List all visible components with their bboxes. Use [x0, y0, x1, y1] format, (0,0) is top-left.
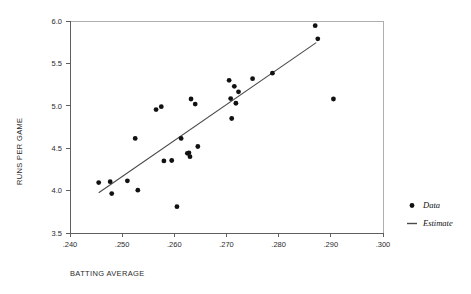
plot-area: 6.05.55.04.54.03.5.240.250.260.270.280.2…: [0, 0, 471, 294]
data-point-marker: [331, 97, 336, 102]
axis-tick-labels: 6.05.55.04.54.03.5.240.250.260.270.280.2…: [52, 17, 391, 249]
y-tick-label: 4.5: [52, 144, 62, 153]
data-point-marker: [236, 89, 241, 94]
y-tick-label: 5.0: [52, 102, 62, 111]
x-axis-title: BATTING AVERAGE: [70, 269, 145, 278]
y-tick-label: 6.0: [52, 17, 62, 26]
legend-label-data: Data: [422, 200, 440, 210]
legend: DataEstimate: [407, 200, 453, 228]
data-point-marker: [193, 102, 198, 107]
data-point-marker: [159, 104, 164, 109]
x-tick-label: .250: [115, 240, 130, 249]
axis-ticks: [66, 21, 383, 237]
data-point-marker: [227, 78, 232, 83]
y-tick-label: 3.5: [52, 229, 62, 238]
data-point-marker: [133, 136, 138, 141]
data-point-marker: [175, 204, 180, 209]
legend-marker-data: [410, 203, 415, 208]
data-point-marker: [154, 107, 159, 112]
data-point-marker: [169, 158, 174, 163]
data-point-marker: [96, 180, 101, 185]
data-points: [96, 23, 336, 209]
data-point-marker: [188, 154, 193, 159]
estimate-line: [99, 43, 317, 193]
data-point-marker: [232, 84, 237, 89]
x-tick-label: .300: [376, 240, 391, 249]
axis-spines: [70, 21, 383, 233]
data-point-marker: [313, 23, 318, 28]
data-point-marker: [229, 116, 234, 121]
scatter-chart-figure: 6.05.55.04.54.03.5.240.250.260.270.280.2…: [0, 0, 471, 294]
data-point-marker: [109, 191, 114, 196]
x-tick-label: .260: [167, 240, 182, 249]
estimate-regression-line: [99, 43, 317, 193]
data-point-marker: [108, 179, 113, 184]
data-point-marker: [125, 178, 130, 183]
data-point-marker: [228, 96, 233, 101]
data-point-marker: [250, 76, 255, 81]
data-point-marker: [179, 136, 184, 141]
y-tick-label: 4.0: [52, 186, 62, 195]
data-point-marker: [233, 101, 238, 106]
y-tick-label: 5.5: [52, 59, 62, 68]
x-tick-label: .280: [271, 240, 286, 249]
x-tick-label: .290: [324, 240, 339, 249]
data-point-marker: [135, 188, 140, 193]
x-tick-label: .240: [63, 240, 78, 249]
x-tick-label: .270: [219, 240, 234, 249]
axes: [70, 21, 383, 233]
data-point-marker: [189, 97, 194, 102]
data-point-marker: [270, 71, 275, 76]
y-axis-title: RUNS PER GAME: [15, 118, 24, 185]
data-point-marker: [162, 159, 167, 164]
data-point-marker: [195, 144, 200, 149]
data-point-marker: [315, 36, 320, 41]
legend-label-estimate: Estimate: [422, 218, 453, 228]
